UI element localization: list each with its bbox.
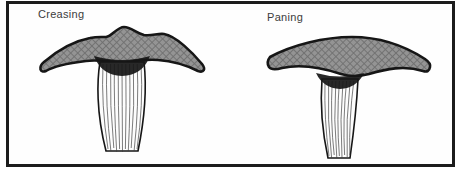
- paning-hammer: [268, 37, 430, 158]
- hammer-illustration: [0, 0, 470, 176]
- creasing-hammer: [40, 27, 204, 152]
- creasing-label: Creasing: [38, 8, 84, 20]
- hammer-types-figure: Creasing Paning: [0, 0, 470, 176]
- paning-label: Paning: [267, 11, 303, 23]
- paning-hammer-head: [268, 37, 430, 76]
